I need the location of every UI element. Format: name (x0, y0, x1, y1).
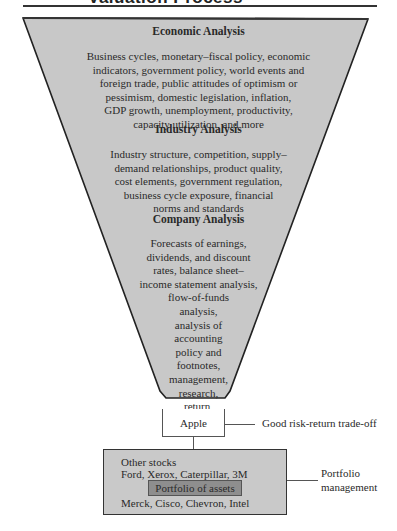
text-line: cost elements, government regulation, (0, 175, 397, 189)
risk-return-label: Good risk-return trade-off (262, 417, 377, 431)
text-line: research, (0, 387, 397, 401)
industry-analysis-heading: Industry Analysis (0, 122, 397, 136)
portfolio-of-assets-box: Portfolio of assets (148, 480, 242, 496)
economic-analysis-heading: Economic Analysis (0, 24, 397, 38)
company-analysis-section: Company Analysis Forecasts of earnings, … (0, 212, 397, 427)
portfolio-box: Other stocks Ford, Xerox, Caterpillar, 3… (103, 449, 287, 515)
company-analysis-body: Forecasts of earnings, dividends, and di… (0, 237, 397, 427)
text-line: demand relationships, product quality, (0, 162, 397, 176)
economic-analysis-body: Business cycles, monetary–fiscal policy,… (0, 50, 397, 132)
selection-connector-line (224, 424, 255, 425)
economic-analysis-section: Economic Analysis Business cycles, monet… (0, 24, 397, 132)
label-line: Portfolio (321, 467, 377, 481)
industry-analysis-body: Industry structure, competition, supply–… (0, 148, 397, 216)
portfolio-stocks-row-2: Merck, Cisco, Chevron, Intel (121, 497, 249, 510)
industry-analysis-section: Industry Analysis Industry structure, co… (0, 122, 397, 216)
text-line: rates, balance sheet– (0, 264, 397, 278)
text-line: GDP growth, unemployment, productivity, (0, 104, 397, 118)
label-line: management (321, 481, 377, 495)
text-line: footnotes, (0, 359, 397, 373)
text-line: dividends, and discount (0, 251, 397, 265)
text-line: Forecasts of earnings, (0, 237, 397, 251)
portfolio-management-label: Portfolio management (321, 467, 377, 494)
text-line: flow-of-funds (0, 291, 397, 305)
text-line: income statement analysis, (0, 278, 397, 292)
text-line: Business cycles, monetary–fiscal policy,… (0, 50, 397, 64)
text-line: Industry structure, competition, supply– (0, 148, 397, 162)
text-line: management, (0, 373, 397, 387)
text-line: analysis of (0, 319, 397, 333)
text-line: analysis, (0, 305, 397, 319)
portfolio-connector-line (287, 480, 318, 481)
text-line: accounting (0, 332, 397, 346)
selected-stock-box: Apple (162, 409, 225, 437)
text-line: policy and (0, 346, 397, 360)
text-line: pessimism, domestic legislation, inflati… (0, 91, 397, 105)
selection-to-portfolio-line (193, 437, 194, 449)
text-line: business cycle exposure, financial (0, 189, 397, 203)
text-line: foreign trade, public attitudes of optim… (0, 77, 397, 91)
text-line: indicators, government policy, world eve… (0, 64, 397, 78)
company-analysis-heading: Company Analysis (0, 212, 397, 226)
